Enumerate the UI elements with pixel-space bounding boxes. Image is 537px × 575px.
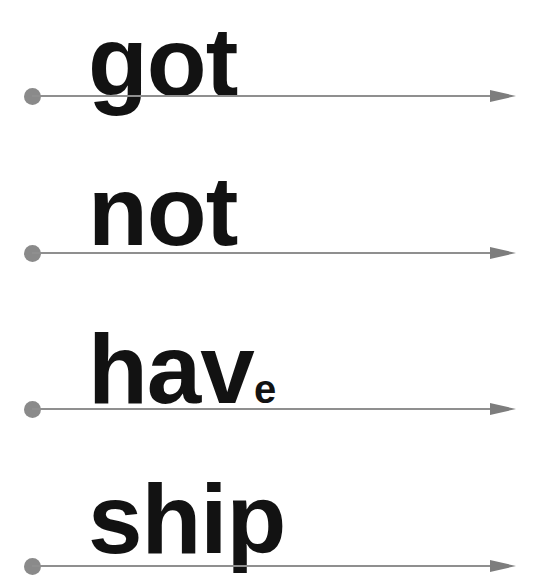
- arrow-right-icon: [490, 247, 516, 259]
- arrow-right-icon: [490, 560, 516, 572]
- baseline-line: [32, 252, 492, 254]
- word-text: not: [88, 162, 237, 260]
- arrow-right-icon: [490, 403, 516, 415]
- word-main: ship: [88, 464, 285, 574]
- baseline-line: [32, 565, 492, 567]
- word-row-ship: ship: [0, 0, 537, 157]
- baseline-line: [32, 408, 492, 410]
- word-text: ship: [88, 470, 285, 568]
- word-suffix: e: [254, 367, 276, 411]
- word-text: have: [88, 320, 276, 418]
- word-main: not: [88, 156, 237, 266]
